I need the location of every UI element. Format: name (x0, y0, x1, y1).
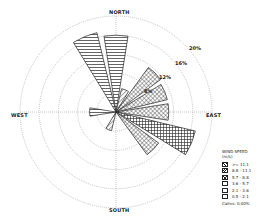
legend-item: 2.1 - 3.6 (222, 187, 251, 194)
legend-item: 8.8 - 11.1 (222, 168, 251, 175)
legend-item: 3.6 - 5.7 (222, 181, 251, 188)
wind-sector-bar (90, 108, 116, 116)
label-south: SOUTH (109, 207, 130, 213)
label-east: EAST (206, 112, 221, 118)
legend-item: >= 11.1 (222, 161, 251, 168)
legend-unit: (m/s) (222, 154, 251, 159)
ring-label-16: 16% (175, 60, 187, 66)
label-west: WEST (11, 112, 28, 118)
swatch-hatch-icon (222, 162, 228, 167)
legend-item: 0.5 - 2.1 (222, 194, 251, 201)
swatch-dense-hatch-icon (222, 168, 228, 173)
ring-label-12: 12% (159, 74, 171, 80)
wind-bars (73, 33, 195, 155)
legend: WIND SPEED (m/s) >= 11.1 8.8 - 11.1 5.7 … (222, 149, 251, 206)
swatch-cross-icon (222, 175, 228, 180)
legend-item: 5.7 - 8.8 (222, 174, 251, 181)
ring-label-20: 20% (189, 45, 201, 51)
swatch-vertical-icon (222, 188, 228, 193)
swatch-horizontal-icon (222, 181, 228, 186)
label-north: NORTH (109, 9, 130, 15)
calms-label: Calms: 0.00% (222, 201, 251, 206)
swatch-grid-icon (222, 194, 228, 199)
ring-label-8: 8% (144, 88, 153, 94)
wind-sector-bar (106, 112, 116, 131)
